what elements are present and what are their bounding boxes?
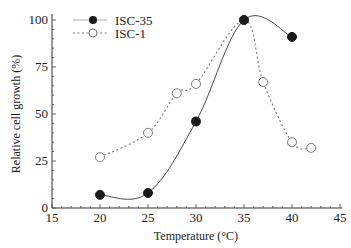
legend: ISC-35ISC-1 (73, 13, 153, 41)
data-point-filled-circle (96, 190, 105, 199)
legend-open-circle-icon (89, 29, 97, 37)
data-point-open-circle (288, 138, 297, 147)
y-tick-label: 0 (42, 200, 49, 215)
data-point-open-circle (192, 79, 201, 88)
legend-label: ISC-1 (115, 26, 146, 41)
axes: 152025303540450255075100 (29, 12, 347, 225)
data-point-open-circle (144, 128, 153, 137)
y-tick-label: 75 (35, 59, 48, 74)
data-point-filled-circle (192, 117, 201, 126)
data-point-open-circle (259, 78, 268, 87)
data-point-open-circle (172, 89, 181, 98)
x-tick-label: 35 (238, 210, 251, 225)
line-chart: 152025303540450255075100 ISC-35ISC-1 Tem… (0, 0, 351, 248)
x-axis-label: Temperature (°C) (154, 229, 238, 243)
data-point-open-circle (307, 143, 316, 152)
x-tick-label: 30 (190, 210, 203, 225)
x-tick-label: 40 (286, 210, 299, 225)
legend-item-isc-1: ISC-1 (73, 26, 146, 41)
series-line-isc-35 (100, 16, 292, 200)
series-line-isc-1 (100, 20, 311, 157)
series-isc-35 (96, 16, 297, 200)
x-tick-label: 25 (142, 210, 155, 225)
data-point-open-circle (96, 153, 105, 162)
data-point-filled-circle (288, 32, 297, 41)
x-tick-label: 20 (94, 210, 107, 225)
data-point-filled-circle (240, 16, 249, 25)
series-layer (96, 16, 316, 200)
y-axis-label: Relative cell growth (%) (9, 55, 23, 173)
x-tick-label: 45 (334, 210, 347, 225)
legend-filled-circle-icon (89, 16, 97, 24)
y-tick-label: 100 (29, 12, 49, 27)
y-tick-label: 50 (35, 106, 48, 121)
y-tick-label: 25 (35, 153, 48, 168)
data-point-filled-circle (144, 188, 153, 197)
